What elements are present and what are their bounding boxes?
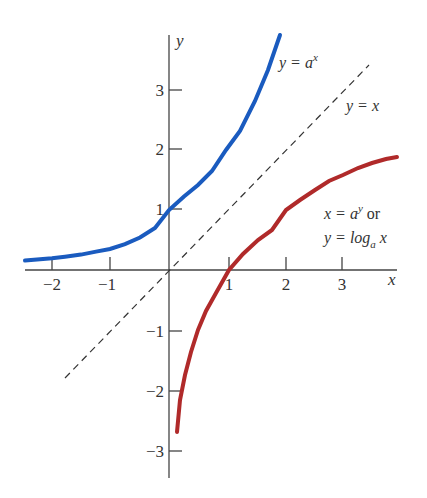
y-axis-label: y: [174, 31, 184, 50]
logarithmic-curve: [177, 157, 397, 432]
x-tick-label: −2: [43, 275, 61, 294]
x-tick-label: 3: [338, 275, 347, 294]
y-tick-label: 3: [156, 81, 165, 100]
y-tick-label: −3: [146, 442, 164, 461]
log-curve-label-line2: y = loga x: [322, 229, 387, 250]
exp-curve-label: y = ax: [277, 51, 318, 72]
y-tick-label: −2: [146, 382, 164, 401]
x-axis-label: x: [387, 270, 396, 289]
y-tick-label: 2: [156, 140, 165, 159]
x-tick-label: −1: [98, 275, 116, 294]
log-curve-label-line1: x = ay or: [323, 202, 381, 222]
y-tick-label: −1: [146, 322, 164, 341]
x-tick-label: 2: [282, 275, 291, 294]
exponential-curve: [25, 35, 280, 261]
chart-canvas: −2 −1 1 2 3 3 2 1 −1 −2 −3 x y y = ax y …: [0, 0, 427, 498]
x-ticks: [52, 257, 342, 270]
identity-label: y = x: [344, 97, 379, 115]
